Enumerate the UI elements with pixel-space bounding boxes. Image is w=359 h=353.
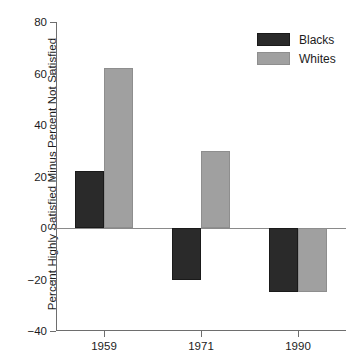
x-axis-tick [201, 331, 202, 337]
y-axis-tick-label: 40 [34, 119, 47, 131]
x-axis-tick-label: 1959 [91, 340, 117, 352]
y-axis-line [56, 22, 57, 331]
bar-1990-whites [298, 228, 327, 292]
x-axis-tick [298, 331, 299, 337]
legend-item: Blacks [257, 31, 336, 48]
bar-chart: Percent Highly Satisfied Minus Percent N… [0, 0, 359, 353]
x-axis-tick-label: 1971 [188, 340, 214, 352]
y-axis-tick [50, 177, 56, 178]
x-axis-tick-label: 1990 [285, 340, 311, 352]
bar-1990-blacks [269, 228, 298, 292]
y-axis-tick [50, 125, 56, 126]
chart-legend: BlacksWhites [257, 31, 336, 69]
bar-1971-blacks [172, 228, 201, 280]
legend-swatch-icon [257, 52, 290, 65]
legend-label: Blacks [299, 33, 334, 47]
y-axis-tick-label: 60 [34, 68, 47, 80]
bar-1959-blacks [75, 171, 104, 228]
y-axis-tick-label: 80 [34, 16, 47, 28]
y-axis-tick [50, 331, 56, 332]
y-axis-tick-label: 0 [41, 222, 47, 234]
y-axis-tick-label: −40 [27, 325, 47, 337]
legend-label: Whites [299, 52, 336, 66]
legend-swatch-icon [257, 33, 290, 46]
y-axis-tick-label: −20 [27, 274, 47, 286]
bar-1959-whites [104, 68, 133, 228]
y-axis-tick-label: 20 [34, 171, 47, 183]
y-axis-tick [50, 22, 56, 23]
legend-item: Whites [257, 50, 336, 67]
y-axis-tick [50, 280, 56, 281]
bar-1971-whites [201, 151, 230, 228]
y-axis-tick [50, 74, 56, 75]
x-axis-tick [104, 331, 105, 337]
y-axis-tick [50, 228, 56, 229]
